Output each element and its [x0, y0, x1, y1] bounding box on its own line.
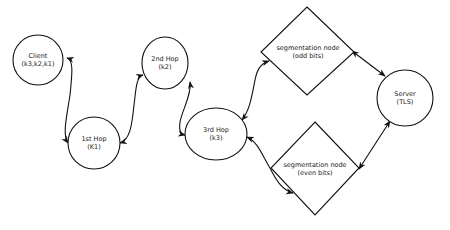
seg-even-bits: (even bits) — [298, 169, 333, 177]
hop3-key: (k3) — [210, 134, 223, 142]
node-hop2: 2nd Hop (k2) — [142, 37, 188, 89]
node-hop1: 1st Hop (K1) — [68, 117, 120, 169]
seg-even-label: segmentation node — [283, 161, 346, 169]
node-seg-odd: segmentation node (odd bits) — [261, 7, 354, 95]
server-label: Server — [394, 90, 416, 98]
diagram-canvas: Client (k3,k2,k1) 1st Hop (K1) 2nd Hop (… — [0, 0, 450, 230]
hop2-key: (k2) — [159, 63, 172, 71]
node-seg-even: segmentation node (even bits) — [271, 122, 359, 215]
edge-hop3-seg-odd — [242, 61, 269, 120]
edge-seg-odd-server — [352, 51, 385, 76]
hop1-label: 1st Hop — [81, 135, 106, 143]
server-protocol: (TLS) — [397, 98, 414, 106]
hop2-label: 2nd Hop — [151, 55, 178, 63]
node-client: Client (k3,k2,k1) — [13, 35, 63, 85]
edge-hop1-hop2 — [120, 75, 143, 143]
client-keys: (k3,k2,k1) — [22, 60, 55, 68]
client-label: Client — [29, 52, 48, 60]
seg-odd-bits: (odd bits) — [292, 52, 323, 60]
node-hop3: 3rd Hop (k3) — [185, 108, 247, 160]
node-server: Server (TLS) — [377, 70, 433, 126]
edge-seg-even-server — [359, 121, 390, 169]
hop3-label: 3rd Hop — [203, 126, 229, 134]
network-diagram: Client (k3,k2,k1) 1st Hop (K1) 2nd Hop (… — [0, 0, 450, 230]
seg-odd-label: segmentation node — [276, 44, 339, 52]
hop1-key: (K1) — [87, 143, 100, 151]
